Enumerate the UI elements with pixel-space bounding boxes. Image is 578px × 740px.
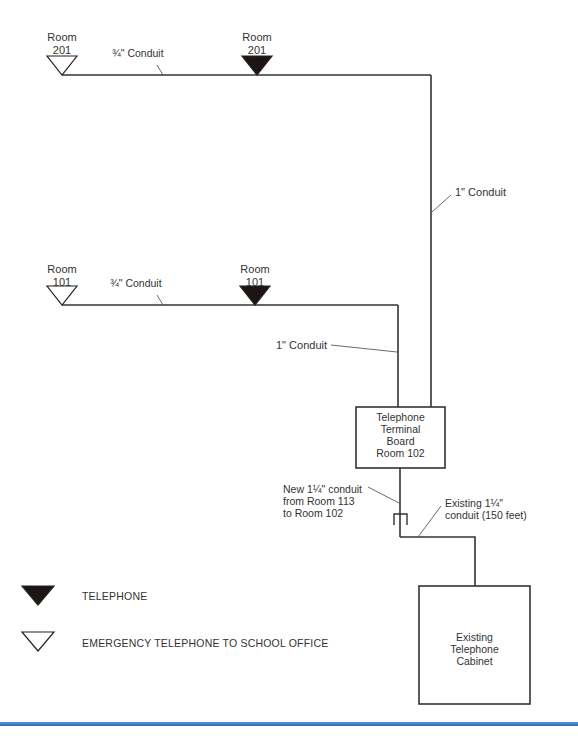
leader-floor1-riser (331, 345, 397, 352)
existing-conduit (400, 537, 475, 586)
legend-emergency-telephone-icon (22, 632, 54, 651)
leader-existing-conduit (418, 506, 441, 537)
floor2-riser-conduit-label: 1" Conduit (455, 186, 506, 199)
terminal-board-label: Telephone Terminal Board Room 102 (356, 411, 445, 459)
floor1-branch-conduit-label: ¾" Conduit (110, 277, 162, 290)
floor1-riser-conduit-label: 1" Conduit (276, 339, 327, 352)
leader-floor1-branch (157, 295, 163, 305)
room101-telephone-label: Room 101 (237, 263, 273, 289)
existing-conduit-note: Existing 1¼" conduit (150 feet) (445, 497, 527, 521)
cabinet-label: Existing Telephone Cabinet (419, 631, 530, 667)
conduit-diagram (0, 0, 578, 740)
page-rule (0, 722, 578, 726)
legend-emergency-telephone-label: EMERGENCY TELEPHONE TO SCHOOL OFFICE (82, 637, 328, 650)
telephone-icon-room201 (242, 56, 272, 75)
room201-telephone-label: Room 201 (239, 31, 275, 57)
room201-emergency-label: Room 201 (44, 31, 80, 57)
legend-telephone-icon (22, 586, 54, 605)
leader-new-conduit (368, 487, 399, 503)
new-conduit-note: New 1¼" conduit from Room 113 to Room 10… (283, 483, 362, 519)
leader-floor2-branch (157, 65, 163, 75)
floor2-branch-conduit-label: ¾" Conduit (112, 47, 164, 60)
room101-emergency-label: Room 101 (44, 263, 80, 289)
leader-floor2-riser (432, 195, 451, 212)
legend-telephone-label: TELEPHONE (82, 590, 147, 603)
emergency-telephone-icon-room201 (47, 56, 77, 75)
